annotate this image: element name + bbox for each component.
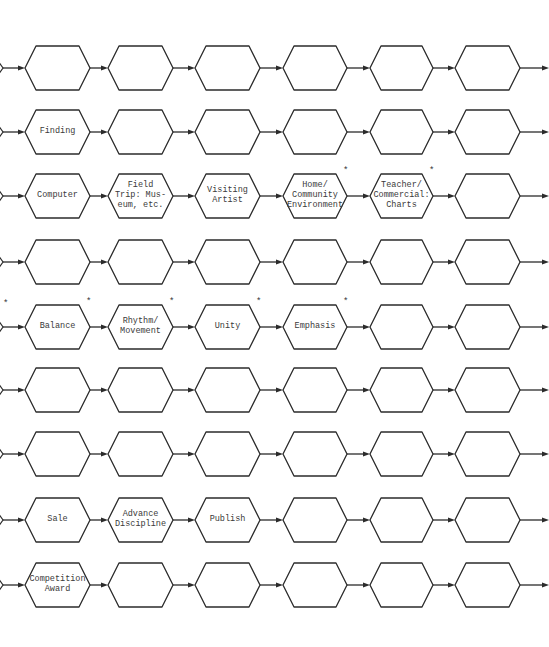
connector-arrow [260, 194, 283, 199]
connector-arrow [173, 518, 195, 523]
connector-arrow [433, 194, 455, 199]
hexagon-node [370, 174, 433, 218]
connector-arrow [90, 518, 108, 523]
connector-arrow [433, 325, 455, 330]
connector-arrow [520, 452, 549, 457]
hexagon-node [370, 110, 433, 154]
partial-hexagon-left [0, 122, 3, 142]
asterisk-marker: * [256, 297, 261, 307]
hexagon-node [108, 174, 173, 218]
hexagon-node [283, 46, 347, 90]
connector-arrow [90, 66, 108, 71]
connector-arrow [433, 518, 455, 523]
hexagon-node [283, 110, 347, 154]
connector-arrow [433, 66, 455, 71]
hexagon-node [195, 174, 260, 218]
connector-arrow [3, 325, 25, 330]
hexagon-node [455, 174, 520, 218]
connector-arrow [520, 66, 549, 71]
connector-arrow [260, 325, 283, 330]
connector-arrow [3, 452, 25, 457]
hexagon-node [25, 240, 90, 284]
connector-arrow [260, 452, 283, 457]
diagram-canvas [0, 0, 549, 647]
hexagon-node [370, 368, 433, 412]
hexagon-node [455, 305, 520, 349]
hexagon-node [370, 305, 433, 349]
connector-arrow [90, 130, 108, 135]
hexagon-node [283, 498, 347, 542]
connector-arrow [347, 130, 370, 135]
connector-arrow [260, 518, 283, 523]
hexagon-node [455, 432, 520, 476]
hexagon-node [283, 432, 347, 476]
connector-arrow [520, 194, 549, 199]
hexagon-node [283, 368, 347, 412]
connector-arrow [173, 325, 195, 330]
hexagon-node [283, 305, 347, 349]
partial-hexagon-left [0, 186, 3, 206]
connector-arrow [260, 388, 283, 393]
hexagon-node [25, 46, 90, 90]
connector-arrow [260, 583, 283, 588]
asterisk-marker: * [343, 297, 348, 307]
hexagon-node [455, 240, 520, 284]
connector-arrow [90, 452, 108, 457]
partial-hexagon-left [0, 510, 3, 530]
connector-arrow [90, 325, 108, 330]
hexagon-node [25, 432, 90, 476]
hexagon-node [283, 563, 347, 607]
connector-arrow [433, 130, 455, 135]
hexagon-node [455, 368, 520, 412]
hexagon-node [195, 46, 260, 90]
connector-arrow [433, 583, 455, 588]
partial-hexagon-left [0, 317, 3, 337]
hexagon-node [195, 498, 260, 542]
connector-arrow [347, 194, 370, 199]
hexagon-node [108, 110, 173, 154]
hexagon-node [25, 498, 90, 542]
partial-hexagon-left [0, 575, 3, 595]
connector-arrow [433, 388, 455, 393]
hexagon-node [25, 174, 90, 218]
connector-arrow [3, 66, 25, 71]
asterisk-marker: * [169, 297, 174, 307]
hexagon-node [25, 368, 90, 412]
connector-arrow [520, 388, 549, 393]
asterisk-marker: * [3, 299, 8, 309]
hexagon-node [108, 305, 173, 349]
hexagon-node [25, 563, 90, 607]
connector-arrow [260, 130, 283, 135]
connector-arrow [3, 130, 25, 135]
hexagon-node [283, 174, 347, 218]
connector-arrow [90, 260, 108, 265]
asterisk-marker: * [343, 166, 348, 176]
hexagon-node [108, 498, 173, 542]
connector-arrow [173, 388, 195, 393]
connector-arrow [347, 66, 370, 71]
hexagon-node [25, 110, 90, 154]
hexagon-node [455, 563, 520, 607]
hexagon-node [195, 305, 260, 349]
hexagon-node [108, 368, 173, 412]
connector-arrow [3, 388, 25, 393]
connector-arrow [173, 194, 195, 199]
hexagon-node [195, 110, 260, 154]
hexagon-node [455, 498, 520, 542]
hexagon-node [370, 46, 433, 90]
connector-arrow [173, 130, 195, 135]
connector-arrow [347, 325, 370, 330]
connector-arrow [347, 518, 370, 523]
hexagon-node [195, 432, 260, 476]
connector-arrow [520, 130, 549, 135]
connector-arrow [90, 388, 108, 393]
connector-arrow [347, 260, 370, 265]
connector-arrow [520, 583, 549, 588]
connector-arrow [3, 518, 25, 523]
partial-hexagon-left [0, 58, 3, 78]
hexagon-node [370, 498, 433, 542]
connector-arrow [433, 260, 455, 265]
hexagon-node [195, 368, 260, 412]
hexagon-node [370, 432, 433, 476]
hexagon-node [108, 432, 173, 476]
